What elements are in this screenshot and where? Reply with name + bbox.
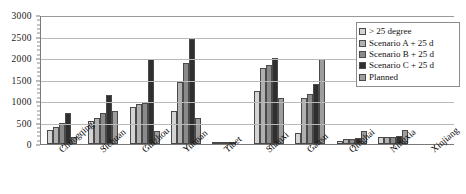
legend-label: Scenario B + 25 d (369, 50, 434, 59)
legend: > 25 degreeScenario A + 25 dScenario B +… (356, 22, 460, 87)
legend-label: Scenario A + 25 d (369, 39, 434, 48)
y-axis-tick-label: 1000 (11, 97, 32, 107)
legend-swatch (359, 62, 366, 69)
legend-item[interactable]: Planned (359, 72, 456, 83)
x-axis-labels: ChongqingSichuanGuizhouYunnanTibetShanxi… (40, 147, 454, 194)
legend-label: > 25 degree (369, 27, 412, 36)
legend-swatch (359, 28, 366, 35)
y-axis-tick-label: 500 (17, 119, 32, 129)
y-axis-tick-label: 3000 (11, 11, 32, 21)
legend-item[interactable]: Scenario B + 25 d (359, 49, 456, 60)
y-axis: 050010001500200025003000 (0, 16, 36, 145)
legend-swatch (359, 51, 366, 58)
y-axis-tick-label: 2000 (11, 54, 32, 64)
legend-item[interactable]: Scenario A + 25 d (359, 37, 456, 48)
legend-swatch (359, 40, 366, 47)
gridline (41, 102, 454, 103)
y-axis-tick-label: 2500 (11, 33, 32, 43)
grouped-bar-chart: 050010001500200025003000 ChongqingSichua… (0, 0, 466, 194)
legend-label: Planned (369, 73, 398, 82)
gridline (41, 124, 454, 125)
legend-item[interactable]: > 25 degree (359, 26, 456, 37)
legend-item[interactable]: Scenario C + 25 d (359, 60, 456, 71)
legend-swatch (359, 74, 366, 81)
y-axis-tick-label: 0 (27, 140, 32, 150)
y-axis-tick-label: 1500 (11, 76, 32, 86)
legend-label: Scenario C + 25 d (369, 61, 434, 70)
gridline (41, 16, 454, 17)
